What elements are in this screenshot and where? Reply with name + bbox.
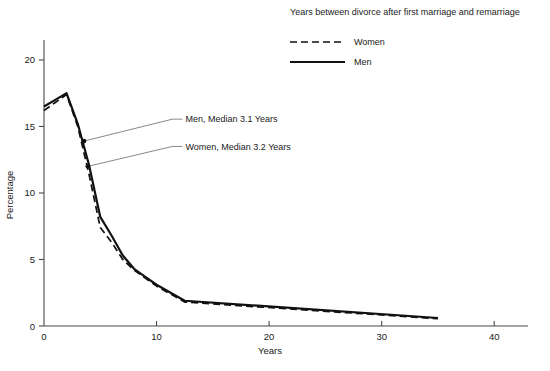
axes-group — [44, 40, 528, 326]
series-line-men — [44, 93, 438, 318]
legend-label-men: Men — [354, 57, 372, 67]
series-group — [44, 93, 438, 318]
y-tick-label: 20 — [24, 54, 35, 65]
annotation-point-marker — [85, 164, 90, 169]
x-tick-label: 20 — [264, 331, 275, 342]
x-tick-label: 30 — [376, 331, 387, 342]
y-tick-label: 10 — [24, 187, 35, 198]
x-axis-title: Years — [258, 345, 282, 356]
annotation-leader-line — [84, 119, 182, 141]
x-tick-label: 40 — [489, 331, 500, 342]
series-line-women — [44, 95, 438, 319]
x-tick-label: 10 — [151, 331, 162, 342]
line-chart: 05101520 010203040 Percentage Years Men,… — [0, 0, 550, 371]
legend-label-women: Women — [354, 37, 385, 47]
x-tick-label: 0 — [41, 331, 46, 342]
y-tick-label: 0 — [30, 321, 35, 332]
x-axis-ticks: 010203040 — [41, 321, 499, 342]
y-axis-ticks: 05101520 — [24, 54, 44, 331]
annotation-label: Women, Median 3.2 Years — [185, 142, 291, 152]
chart-legend: Years between divorce after first marria… — [290, 7, 520, 67]
annotation-point-marker — [82, 139, 87, 144]
chart-container: 05101520 010203040 Percentage Years Men,… — [0, 0, 550, 371]
annotation-leader-line — [88, 146, 183, 166]
legend-title: Years between divorce after first marria… — [290, 7, 520, 17]
y-tick-label: 5 — [30, 254, 35, 265]
annotations-group: Men, Median 3.1 YearsWomen, Median 3.2 Y… — [82, 114, 292, 168]
y-tick-label: 15 — [24, 121, 35, 132]
annotation-label: Men, Median 3.1 Years — [185, 114, 278, 124]
y-axis-title: Percentage — [4, 171, 15, 220]
